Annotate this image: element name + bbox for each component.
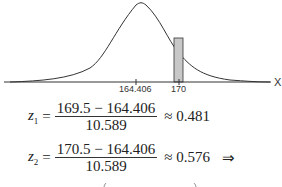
axis-label: X (274, 76, 281, 88)
z1-result: ≈ 0.481 (164, 108, 210, 125)
mean-label: 164.406 (119, 84, 152, 94)
partial-parentheses (100, 182, 200, 187)
equation-z2: z2 = 170.5 − 164.406 10.589 ≈ 0.576 ⇒ (28, 141, 235, 174)
shaded-bar (174, 38, 183, 82)
z2-denominator: 10.589 (85, 158, 126, 174)
normal-curve (10, 3, 270, 82)
equals-sign: = (42, 149, 50, 166)
z1-variable: z1 (28, 107, 38, 126)
z2-fraction: 170.5 − 164.406 10.589 (55, 141, 157, 174)
z2-variable: z2 (28, 148, 38, 167)
z1-denominator: 10.589 (85, 117, 126, 133)
implies-arrow: ⇒ (222, 149, 235, 167)
equation-z1: z1 = 169.5 − 164.406 10.589 ≈ 0.481 (28, 100, 210, 133)
value-label: 170 (171, 84, 186, 94)
normal-distribution-graph (0, 0, 282, 95)
z1-numerator: 169.5 − 164.406 (55, 100, 157, 117)
z1-fraction: 169.5 − 164.406 10.589 (55, 100, 157, 133)
z2-numerator: 170.5 − 164.406 (55, 141, 157, 158)
equals-sign: = (42, 108, 50, 125)
z2-result: ≈ 0.576 (164, 149, 210, 166)
